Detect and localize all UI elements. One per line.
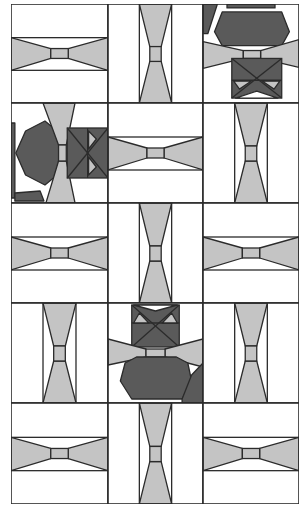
quilt-grid [11, 4, 299, 504]
quilt-block-bowtie-vertical [108, 203, 203, 303]
quilt-block-bowtie-horizontal [11, 203, 108, 303]
quilt-block-cat-sideways [11, 103, 108, 203]
quilt-block-bowtie-vertical [203, 303, 299, 403]
quilt-block-bowtie-horizontal [108, 103, 203, 203]
quilt-block-bowtie-horizontal [11, 403, 108, 504]
quilt-block-bowtie-vertical [11, 303, 108, 403]
quilt-block-bowtie-vertical [108, 403, 203, 504]
quilt-block-bowtie-horizontal [11, 4, 108, 103]
quilt-block-bowtie-vertical [203, 103, 299, 203]
quilt-block-cat-upright [203, 4, 299, 103]
quilt-block-bowtie-horizontal [203, 203, 299, 303]
quilt-block-bowtie-horizontal [203, 403, 299, 504]
quilt-block-cat-inverted [108, 303, 203, 403]
quilt-pattern [11, 4, 299, 504]
quilt-block-bowtie-vertical [108, 4, 203, 103]
